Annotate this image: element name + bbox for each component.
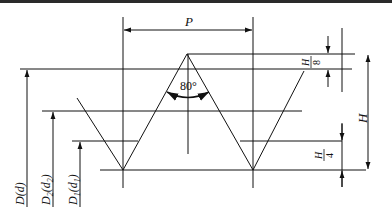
angle-label: 80°: [180, 79, 197, 93]
pitch-diameter-label: D2(d2): [39, 174, 55, 206]
thread-profile-diagram: P 80° H 8 H H 4 D(d) D2(d2) D1(d1): [0, 0, 392, 220]
height-label: H: [355, 113, 370, 124]
h4-numerator: H: [313, 151, 324, 160]
pitch-label: P: [184, 14, 193, 29]
h4-denominator: 4: [324, 153, 335, 158]
major-diameter-label: D(d): [13, 182, 27, 206]
h8-denominator: 8: [311, 60, 322, 65]
minor-diameter-label: D1(d1): [66, 174, 82, 206]
h8-numerator: H: [300, 58, 311, 67]
thread-profile: [77, 54, 304, 170]
